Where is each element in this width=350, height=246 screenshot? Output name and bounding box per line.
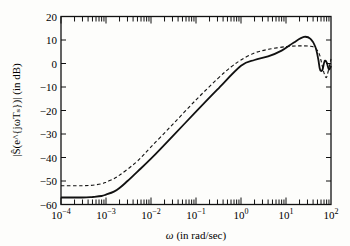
y-tick-label: −50 bbox=[40, 175, 58, 187]
y-tick-label: −10 bbox=[40, 81, 58, 93]
x-tick-label: 10−2 bbox=[141, 207, 161, 221]
plot-curves bbox=[61, 37, 331, 198]
y-tick-label: −20 bbox=[40, 105, 58, 117]
y-axis-label: |Ŝ(e^{jωTₛ})| (in dB) bbox=[10, 63, 23, 157]
x-tick-label: 102 bbox=[324, 207, 339, 221]
x-tick-label: 101 bbox=[279, 207, 294, 221]
dashed-curve bbox=[61, 46, 331, 186]
x-axis-label-units: (in rad/sec) bbox=[174, 229, 227, 242]
solid-curve bbox=[61, 37, 331, 198]
frequency-response-chart: 20100−10−20−30−40−50−60 10−410−310−210−1… bbox=[0, 0, 350, 246]
x-axis-label: ω (in rad/sec) bbox=[166, 229, 227, 242]
y-tick-label: −40 bbox=[40, 152, 58, 164]
y-tick-labels: 20100−10−20−30−40−50−60 bbox=[40, 11, 58, 211]
x-tick-label: 10−4 bbox=[51, 207, 71, 221]
y-tick-label: 10 bbox=[46, 34, 58, 46]
x-tick-label: 10−3 bbox=[96, 207, 116, 221]
y-tick-label: −30 bbox=[40, 128, 58, 140]
x-tick-label: 100 bbox=[234, 207, 249, 221]
y-tick-label: 20 bbox=[46, 11, 58, 23]
y-tick-label: 0 bbox=[52, 58, 58, 70]
x-tick-label: 10−1 bbox=[186, 207, 206, 221]
x-tick-labels: 10−410−310−210−1100101102 bbox=[51, 207, 338, 221]
